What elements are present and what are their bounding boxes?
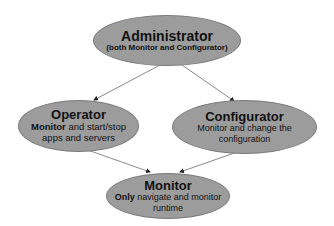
node-description: Monitor and change the configuration <box>186 123 304 144</box>
node-title: Operator <box>51 108 106 122</box>
node-monitor: Monitor Only navigate and monitor runtim… <box>106 173 230 219</box>
edge-administrator-configurator <box>182 65 234 101</box>
node-title: Administrator <box>121 29 213 44</box>
node-configurator: Configurator Monitor and change the conf… <box>172 100 317 154</box>
node-operator: Operator Monitor and start/stop apps and… <box>18 100 139 152</box>
node-description-bold: Monitor <box>31 121 66 132</box>
node-description-bold: Monitor <box>197 123 227 133</box>
node-description: Monitor and start/stop apps and servers <box>31 122 127 144</box>
node-description: Only navigate and monitor runtime <box>110 192 226 213</box>
node-administrator: Administrator (both Monitor and Configur… <box>93 15 241 66</box>
node-description-text: and change the configuration <box>219 123 292 143</box>
node-title: Configurator <box>205 110 284 124</box>
edge-operator-monitor <box>82 148 150 172</box>
node-description-text: navigate and monitor runtime <box>135 192 222 212</box>
node-title: Monitor <box>144 179 192 193</box>
node-description: (both Monitor and Configurator) <box>106 43 227 52</box>
edge-administrator-operator <box>94 65 160 100</box>
node-description-bold: Only <box>115 192 135 202</box>
